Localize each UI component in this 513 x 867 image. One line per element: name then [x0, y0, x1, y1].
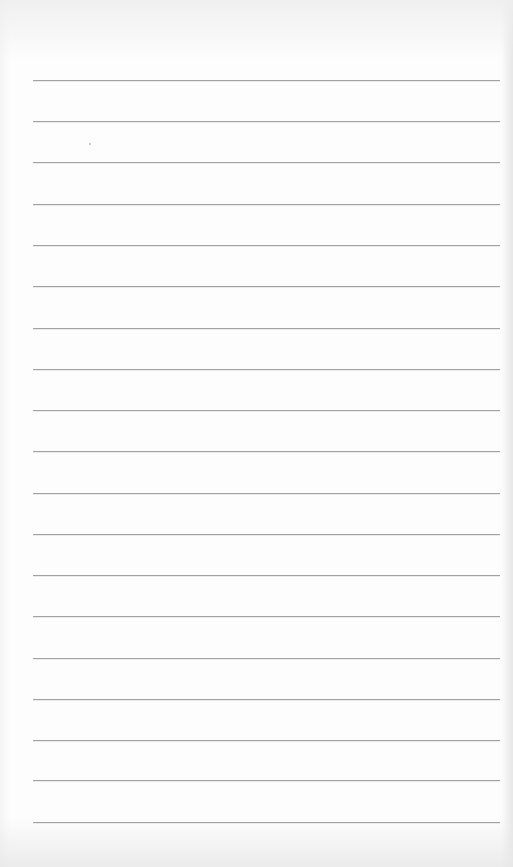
- ruled-line: [33, 80, 500, 81]
- ruled-line: [33, 328, 500, 329]
- ruled-line: [33, 740, 500, 741]
- ruled-line: [33, 369, 500, 370]
- ruled-line: [33, 493, 500, 494]
- ruled-line: [33, 780, 500, 781]
- ruled-paper-page: [0, 0, 513, 867]
- ruled-line: [33, 286, 500, 287]
- ruled-line: [33, 162, 500, 163]
- ruled-line: [33, 616, 500, 617]
- ruled-line: [33, 822, 500, 823]
- ruled-line: [33, 451, 500, 452]
- ruled-line: [33, 534, 500, 535]
- ruled-line: [33, 699, 500, 700]
- ruled-line: [33, 410, 500, 411]
- paper-speck: [89, 143, 91, 145]
- ruled-line: [33, 204, 500, 205]
- ruled-line: [33, 575, 500, 576]
- ruled-line: [33, 658, 500, 659]
- ruled-line: [33, 121, 500, 122]
- ruled-line: [33, 245, 500, 246]
